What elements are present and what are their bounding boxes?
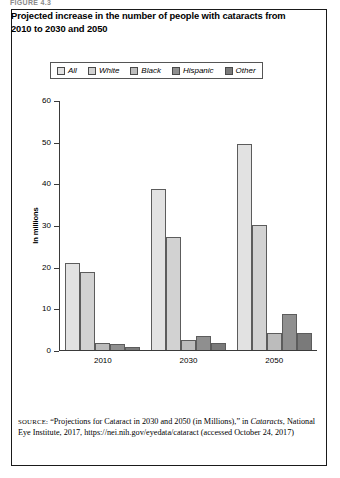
legend-item-hispanic[interactable]: Hispanic [172, 66, 214, 75]
legend-item-all[interactable]: All [57, 66, 77, 75]
y-tick: 10 [54, 309, 59, 310]
bar-other-2030[interactable] [211, 343, 226, 350]
chart-plot-area: In millions 0102030405060 201020302050 [11, 95, 327, 395]
y-tick-label: 50 [42, 138, 51, 147]
y-tick: 60 [54, 101, 59, 102]
bar-white-2030[interactable] [166, 237, 181, 350]
source-italic: Cataracts [250, 417, 282, 426]
bar-group-2050: 2050 [231, 101, 317, 350]
bar-all-2050[interactable] [237, 144, 252, 350]
chart-legend: AllWhiteBlackHispanicOther [50, 62, 263, 79]
legend-swatch-icon [57, 67, 65, 75]
legend-swatch-icon [172, 67, 180, 75]
legend-swatch-icon [88, 67, 96, 75]
y-tick: 0 [54, 351, 59, 352]
bar-all-2030[interactable] [151, 189, 166, 350]
bar-all-2010[interactable] [65, 263, 80, 351]
x-axis-line [59, 350, 317, 351]
bar-white-2010[interactable] [80, 272, 95, 350]
legend-item-label: All [68, 66, 77, 75]
legend-swatch-icon [130, 67, 138, 75]
x-tick-label-2010: 2010 [60, 356, 146, 365]
bar-other-2010[interactable] [125, 347, 140, 350]
legend-item-label: White [99, 66, 119, 75]
bar-black-2010[interactable] [95, 343, 110, 351]
source-text-1: “Projections for Cataract in 2030 and 20… [48, 417, 250, 426]
y-tick-label: 30 [42, 221, 51, 230]
source-note: SOURCE: “Projections for Cataract in 203… [18, 416, 318, 439]
y-tick: 50 [54, 143, 59, 144]
legend-item-black[interactable]: Black [130, 66, 161, 75]
page-title: Projected increase in the number of peop… [11, 9, 291, 35]
bar-black-2050[interactable] [267, 333, 282, 351]
y-tick-label: 60 [42, 96, 51, 105]
bar-groups: 201020302050 [60, 101, 317, 350]
y-tick: 40 [54, 184, 59, 185]
legend-item-label: Other [236, 66, 256, 75]
y-tick: 20 [54, 268, 59, 269]
bar-black-2030[interactable] [181, 340, 196, 350]
bar-hispanic-2010[interactable] [110, 344, 125, 350]
bar-other-2050[interactable] [297, 333, 312, 351]
bar-hispanic-2050[interactable] [282, 314, 297, 350]
source-prefix: SOURCE: [18, 418, 48, 425]
bar-group-2010: 2010 [60, 101, 146, 350]
bar-hispanic-2030[interactable] [196, 336, 211, 350]
y-tick-label: 0 [47, 346, 51, 355]
x-tick-label-2050: 2050 [231, 356, 317, 365]
y-tick-label: 40 [42, 179, 51, 188]
y-axis-label: In millions [31, 191, 40, 261]
legend-item-label: Hispanic [183, 66, 214, 75]
legend-swatch-icon [225, 67, 233, 75]
y-tick-label: 10 [42, 304, 51, 313]
x-tick-label-2030: 2030 [146, 356, 232, 365]
legend-item-white[interactable]: White [88, 66, 119, 75]
y-tick: 30 [54, 226, 59, 227]
figure-label: FIGURE 4.3 [10, 0, 51, 6]
legend-item-other[interactable]: Other [225, 66, 256, 75]
y-tick-label: 20 [42, 263, 51, 272]
legend-item-label: Black [141, 66, 161, 75]
bar-white-2050[interactable] [252, 225, 267, 350]
axes: 0102030405060 201020302050 [59, 101, 317, 351]
bar-group-2030: 2030 [146, 101, 232, 350]
